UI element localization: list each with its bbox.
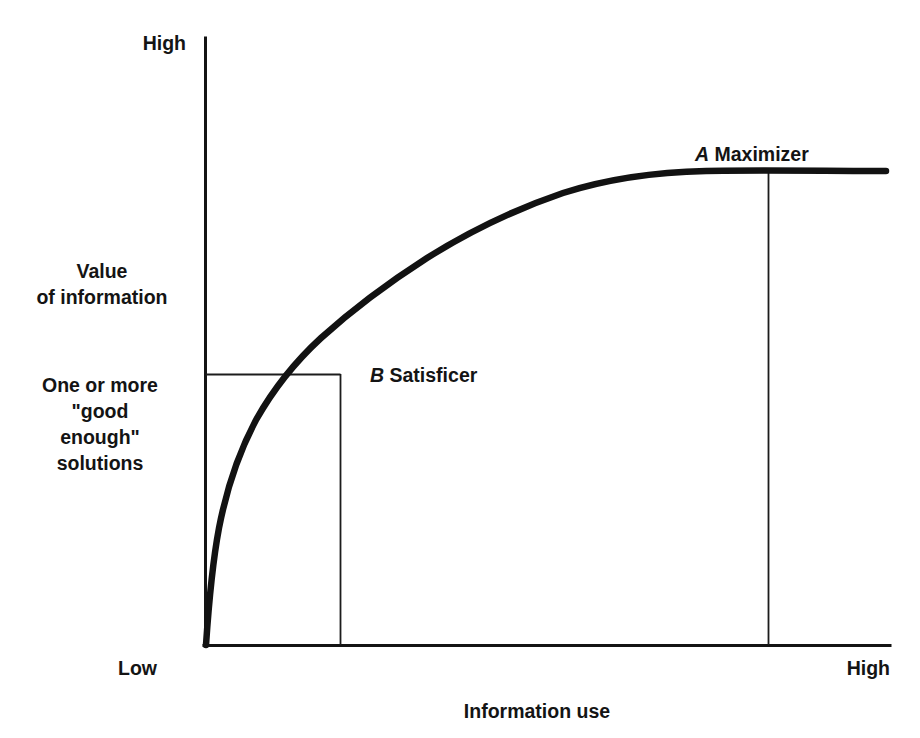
value-of-information-curve [206,171,886,645]
x-axis-title: Information use [437,698,637,724]
annotation-satisficer-letter: B [370,364,384,386]
annotation-satisficer: B Satisficer [370,362,590,388]
annotation-maximizer: A Maximizer [695,141,915,167]
annotation-maximizer-letter: A [695,143,709,165]
y-axis-satisficer-band-label: One or more "good enough" solutions [8,372,192,476]
y-axis-title: Value of information [12,258,192,310]
annotation-satisficer-label: Satisficer [384,364,477,386]
x-axis-min-label: Low [118,655,208,681]
annotation-maximizer-label: Maximizer [709,143,809,165]
x-axis-max-label: High [800,655,890,681]
chart-figure: High Value of information One or more "g… [0,0,920,738]
y-axis-max-label: High [58,30,186,56]
